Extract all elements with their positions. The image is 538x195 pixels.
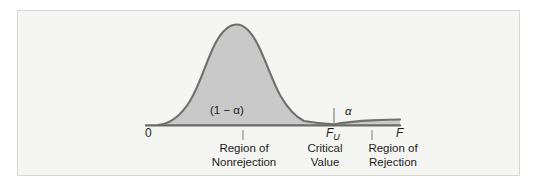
- caption-line-2: Rejection: [356, 155, 430, 169]
- caption-region-of-rejection: Region of Rejection: [356, 141, 430, 169]
- origin-label: 0: [145, 126, 152, 140]
- caption-critical-value: Critical Value: [296, 141, 354, 169]
- figure-root: 0 FU F (1 − α) α Region of Nonrejection …: [0, 0, 538, 195]
- caption-line-1: Critical: [296, 141, 354, 155]
- axis-name-label: F: [396, 126, 403, 140]
- caption-line-1: Region of: [356, 141, 430, 155]
- caption-region-of-nonrejection: Region of Nonrejection: [196, 141, 292, 169]
- caption-line-2: Value: [296, 155, 354, 169]
- nonrejection-area-label: (1 − α): [210, 104, 244, 116]
- caption-line-1: Region of: [196, 141, 292, 155]
- rejection-area-label: α: [345, 105, 352, 117]
- caption-line-2: Nonrejection: [196, 155, 292, 169]
- critical-value-axis-label: FU: [326, 126, 340, 142]
